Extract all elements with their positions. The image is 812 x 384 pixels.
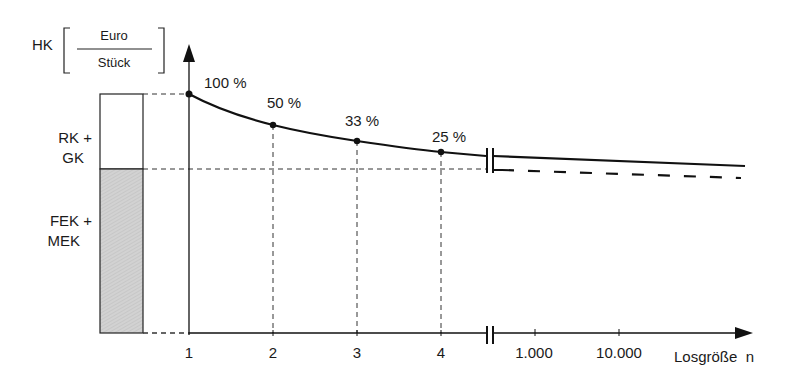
axis-break-curve [487, 148, 502, 173]
stacked-bar [100, 94, 143, 333]
left-bracket [64, 28, 70, 73]
x-tick-1: 1 [185, 344, 193, 361]
x-tick-10000: 10.000 [596, 344, 642, 361]
asymptote-dashed [502, 170, 741, 178]
x-tick-3: 3 [353, 344, 361, 361]
label-rk: RK + [58, 129, 92, 146]
label-mek: MEK [47, 232, 80, 249]
label-fek: FEK + [50, 212, 92, 229]
bar-segment-fek-mek [100, 169, 143, 333]
unit-denominator: Stück [98, 55, 131, 70]
cost-curve [189, 94, 486, 156]
y-axis-arrow-icon [183, 44, 195, 62]
point-label-4: 25 % [432, 128, 466, 145]
y-axis-title: HK [32, 36, 53, 53]
x-axis-arrow-icon [735, 327, 753, 339]
x-axis-title: Losgröße n [674, 348, 754, 365]
label-gk: GK [62, 149, 84, 166]
x-tick-1000: 1.000 [515, 344, 553, 361]
point-label-3: 33 % [345, 112, 379, 129]
unit-numerator: Euro [100, 28, 127, 43]
point-label-2: 50 % [267, 94, 301, 111]
point-label-1: 100 % [204, 74, 247, 91]
x-tick-4: 4 [437, 344, 445, 361]
y-axis-label: HK Euro Stück [32, 28, 164, 73]
cost-curve-continuation [493, 156, 745, 166]
bar-segment-rk-gk [100, 94, 143, 169]
x-tick-2: 2 [269, 344, 277, 361]
data-points [186, 91, 445, 156]
right-bracket [158, 28, 164, 73]
cost-chart: HK Euro Stück RK + GK FEK + MEK [0, 0, 812, 384]
